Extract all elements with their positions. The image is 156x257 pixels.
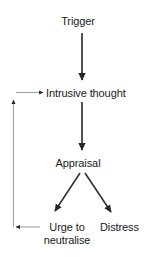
edge-appraisal-to-urge [55, 173, 80, 211]
node-appraisal: Appraisal [0, 157, 156, 170]
node-intrusive-thought: Intrusive thought [46, 87, 156, 100]
node-urge-to-neutralise: Urge to neutralise [36, 221, 98, 246]
diagram-canvas [0, 0, 156, 257]
edge-appraisal-to-distress [85, 173, 111, 212]
node-urge-line-2: neutralise [44, 234, 91, 246]
node-urge-line-1: Urge to [49, 221, 84, 233]
node-trigger: Trigger [0, 15, 156, 28]
node-distress: Distress [100, 221, 152, 234]
flow-diagram: Trigger Intrusive thought Appraisal Urge… [0, 0, 156, 257]
